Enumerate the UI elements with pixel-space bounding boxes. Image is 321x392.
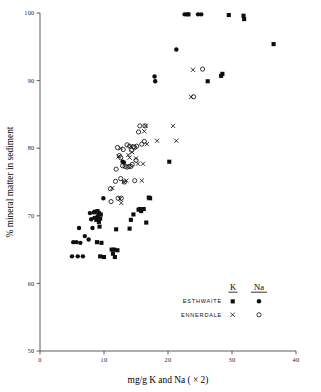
data-point <box>98 216 102 220</box>
legend-row-ennerdale-label: ENNERDALE <box>181 312 222 318</box>
scatter-plot: 5060708090100 010203040 mg/g K and Na ( … <box>0 0 321 392</box>
data-point <box>99 241 103 245</box>
x-tick-label: 0 <box>38 356 41 363</box>
data-point <box>145 142 149 146</box>
data-point <box>192 95 196 99</box>
data-point <box>74 240 78 244</box>
data-point <box>144 221 148 225</box>
legend-column-k: K <box>230 282 237 292</box>
x-axis-ticks: 010203040 <box>38 351 299 363</box>
data-point <box>95 240 99 244</box>
series-esthwaite-k <box>93 12 276 259</box>
data-point <box>185 12 189 16</box>
data-point <box>109 200 113 204</box>
data-point <box>174 139 178 143</box>
data-point <box>76 254 80 258</box>
data-point <box>141 162 145 166</box>
data-point <box>113 255 117 259</box>
y-tick-label: 60 <box>28 280 35 287</box>
data-point <box>174 47 178 51</box>
data-point <box>99 212 103 216</box>
data-point <box>191 68 195 72</box>
legend-marker-ennerdale-k <box>231 313 235 317</box>
data-point <box>142 207 146 211</box>
data-point <box>272 42 276 46</box>
data-point <box>131 212 135 216</box>
data-point <box>81 254 85 258</box>
x-tick-label: 10 <box>101 356 108 363</box>
legend-marker-esthwaite-k <box>231 299 235 303</box>
data-point <box>113 179 117 183</box>
data-point <box>153 79 157 83</box>
data-point <box>83 234 87 238</box>
data-point <box>114 227 118 231</box>
series-ennerdale-na <box>108 67 204 204</box>
data-point <box>97 225 101 229</box>
data-point <box>136 130 140 134</box>
x-tick-label: 20 <box>165 356 172 363</box>
data-point <box>77 226 81 230</box>
y-axis-title: % mineral matter in sediment <box>5 126 15 237</box>
series-esthwaite-na <box>70 12 204 258</box>
legend: K Na ESTHWAITE ENNERDALE <box>181 282 267 318</box>
data-point <box>115 248 119 252</box>
data-point <box>92 216 96 220</box>
data-point <box>114 167 118 171</box>
data-point <box>88 211 92 215</box>
data-point <box>206 79 210 83</box>
data-point <box>119 177 123 181</box>
figure-root: 5060708090100 010203040 mg/g K and Na ( … <box>0 0 321 392</box>
data-point <box>142 129 146 133</box>
y-tick-label: 70 <box>28 212 35 219</box>
x-tick-label: 40 <box>293 356 300 363</box>
legend-column-na: Na <box>254 282 264 292</box>
data-point <box>133 179 137 183</box>
data-point <box>86 237 90 241</box>
data-point <box>92 210 96 214</box>
data-point <box>152 74 156 78</box>
data-point <box>90 226 94 230</box>
data-point <box>143 124 147 128</box>
data-point <box>140 142 144 146</box>
data-point <box>98 254 102 258</box>
data-point <box>142 139 146 143</box>
data-point <box>148 196 152 200</box>
data-point <box>140 179 144 183</box>
data-point <box>200 67 204 71</box>
legend-row-esthwaite-label: ESTHWAITE <box>183 298 222 304</box>
x-axis-title: mg/g K and Na ( × 2) <box>128 375 209 386</box>
y-tick-label: 100 <box>24 9 34 16</box>
series-ennerdale-k <box>110 68 195 205</box>
data-point <box>227 13 231 17</box>
data-point <box>199 12 203 16</box>
y-tick-label: 50 <box>28 347 35 354</box>
data-point <box>155 139 159 143</box>
data-point <box>70 254 74 258</box>
data-point <box>242 17 246 21</box>
x-tick-label: 30 <box>229 356 236 363</box>
legend-marker-esthwaite-na <box>257 299 261 303</box>
data-point <box>171 124 175 128</box>
data-point <box>128 227 132 231</box>
data-point <box>102 255 106 259</box>
data-point <box>129 218 133 222</box>
data-point <box>115 145 119 149</box>
data-point <box>220 72 224 76</box>
y-axis-ticks: 5060708090100 <box>24 9 40 354</box>
legend-marker-ennerdale-na <box>257 313 261 317</box>
data-point <box>167 160 171 164</box>
data-point <box>101 196 105 200</box>
data-point <box>119 201 123 205</box>
data-points-layer <box>70 12 276 259</box>
y-tick-label: 80 <box>28 144 35 151</box>
data-point <box>78 241 82 245</box>
data-point <box>138 124 142 128</box>
y-tick-label: 90 <box>28 77 35 84</box>
